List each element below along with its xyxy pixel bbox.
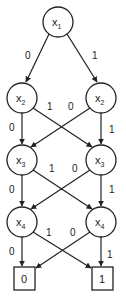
edge-label: 1	[109, 124, 115, 135]
edge-label: 0	[9, 122, 15, 133]
node-sub: 1	[58, 23, 62, 30]
node-sub: 3	[101, 161, 105, 168]
node-x4-left: x4	[7, 207, 37, 237]
node-sub: 2	[22, 99, 26, 106]
bdd-diagram: 0 1 0 1 0 1 0 1 0 1 0 1 0 1 x1 x2 x2 x3 …	[0, 0, 126, 307]
edge-label: 0	[68, 101, 74, 112]
edge-label: 1	[107, 249, 113, 260]
edge-label: 0	[9, 246, 15, 257]
node-sub: 4	[101, 223, 105, 230]
edge-label: 0	[25, 50, 31, 61]
node-sub: 3	[22, 161, 26, 168]
node-x1: x1	[43, 7, 73, 37]
edge-x2r-to-x3l	[31, 108, 90, 147]
edge-x3r-to-x4l	[31, 170, 90, 209]
terminal-0: 0	[14, 267, 35, 290]
terminal-1: 1	[92, 267, 113, 290]
node-x2-right: x2	[86, 83, 116, 113]
node-sub: 4	[22, 223, 26, 230]
edge-label: 1	[92, 50, 98, 61]
edge-label: 1	[49, 163, 55, 174]
terminal-label: 0	[21, 273, 27, 285]
node-sub: 2	[101, 99, 105, 106]
edge-label: 1	[47, 101, 53, 112]
edge-label: 0	[9, 184, 15, 195]
edge-label: 1	[46, 227, 52, 238]
node-x4-right: x4	[86, 207, 116, 237]
terminal-label: 1	[99, 273, 105, 285]
edge-x3l-to-x4r	[33, 170, 92, 209]
edge-label: 0	[72, 163, 78, 174]
node-x3-right: x3	[86, 145, 116, 175]
edge-x2l-to-x3r	[33, 108, 92, 147]
edge-label: 0	[70, 227, 76, 238]
edge-label: 1	[109, 184, 115, 195]
node-x3-left: x3	[7, 145, 37, 175]
node-x2-left: x2	[7, 83, 37, 113]
